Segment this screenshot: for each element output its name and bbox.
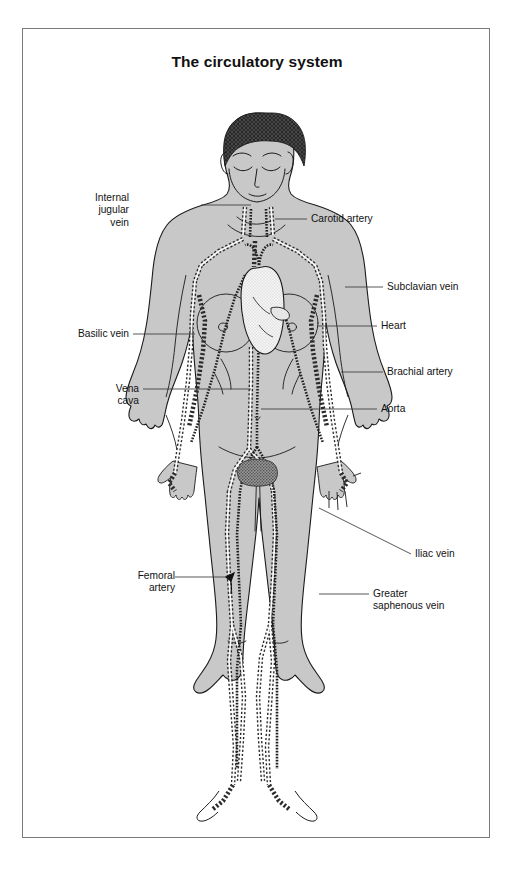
leader-iliac-vein — [319, 508, 411, 554]
label-brachial-artery: Brachial artery — [387, 366, 497, 378]
label-carotid-artery: Carotid artery — [311, 213, 421, 225]
label-internal-jugular-vein: Internal jugular vein — [67, 192, 129, 229]
label-basilic-vein: Basilic vein — [45, 328, 129, 340]
circulatory-system-illustration: Internal jugular vein Carotid artery Bas… — [23, 29, 491, 839]
label-aorta: Aorta — [381, 403, 461, 415]
figure-frame: The circulatory system — [22, 28, 490, 838]
right-hand — [317, 461, 361, 510]
label-subclavian-vein: Subclavian vein — [387, 281, 497, 293]
label-heart: Heart — [381, 320, 461, 332]
page-canvas: The circulatory system — [0, 0, 513, 875]
feet — [197, 791, 317, 821]
label-iliac-vein: Iliac vein — [415, 548, 491, 560]
label-vena-cava: Vena cava — [83, 383, 139, 408]
label-femoral-artery: Femoral artery — [89, 570, 175, 595]
pubic-region — [238, 459, 278, 486]
label-greater-saphenous-vein: Greater saphenous vein — [373, 588, 491, 613]
body-silhouette — [126, 113, 392, 693]
